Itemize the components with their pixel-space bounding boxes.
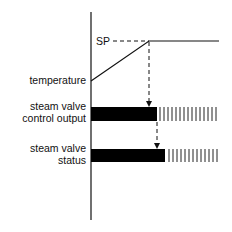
control-output-hatch-off: [160, 107, 216, 121]
setpoint-label: SP: [96, 35, 110, 47]
status-label-line2: status: [58, 154, 86, 166]
temperature-curve: [91, 41, 219, 81]
control-output-bar-on: [91, 107, 157, 121]
arrowhead-icon: [154, 143, 160, 149]
status-label-line1: steam valve: [30, 142, 86, 154]
status-hatch-off: [169, 149, 217, 162]
control-output-label-line2: control output: [22, 112, 86, 124]
temperature-label: temperature: [29, 74, 86, 86]
control-output-label-line1: steam valve: [30, 100, 86, 112]
status-bar-on: [91, 149, 165, 162]
arrowhead-icon: [146, 101, 152, 107]
